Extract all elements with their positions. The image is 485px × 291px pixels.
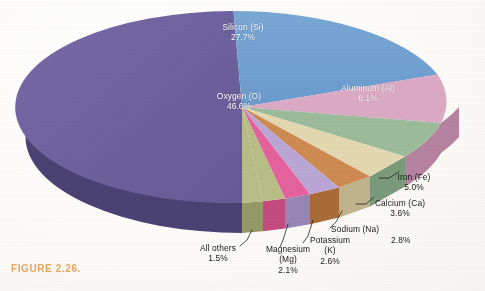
slice-label-calcium-name: Calcium (Ca)	[375, 198, 425, 208]
slice-label-sodium-value: 2.8%	[391, 235, 411, 245]
figure-pie-chart-earth-crust-composition: Oxygen (O) 46.6% Silicon (Si) 27.7% Alum…	[0, 0, 485, 291]
slice-label-iron: Iron (Fe) 5.0%	[381, 172, 447, 193]
slice-label-silicon-name: Silicon (Si)	[222, 22, 263, 32]
slice-label-all-others-name: All others	[200, 243, 236, 253]
slice-label-iron-value: 5.0%	[381, 182, 447, 192]
slice-label-aluminum-name: Aluminum (Al)	[341, 83, 395, 93]
slice-label-oxygen-value: 46.6%	[184, 101, 294, 111]
slice-label-oxygen-name: Oxygen (O)	[217, 91, 261, 101]
slice-label-silicon: Silicon (Si) 27.7%	[183, 22, 303, 43]
figure-caption-label: FIGURE 2.26.	[11, 263, 81, 274]
slice-label-silicon-value: 27.7%	[183, 32, 303, 42]
slice-label-sodium: Sodium (Na)	[331, 224, 415, 234]
slice-label-oxygen: Oxygen (O) 46.6%	[184, 91, 294, 112]
slice-label-all-others: All others 1.5%	[190, 243, 246, 264]
slice-label-all-others-value: 1.5%	[190, 253, 246, 263]
slice-label-aluminum-value: 8.1%	[318, 93, 418, 103]
side-wall-all-others	[242, 201, 263, 233]
side-wall-magnesium	[263, 199, 285, 232]
slice-label-calcium-value: 3.6%	[357, 208, 443, 218]
slice-label-magnesium: Magnesium (Mg) 2.1%	[254, 244, 322, 275]
slice-label-magnesium-value: 2.1%	[254, 265, 322, 275]
slice-label-aluminum: Aluminum (Al) 8.1%	[318, 83, 418, 104]
slice-label-magnesium-name: Magnesium	[266, 244, 310, 254]
slice-label-sodium-name: Sodium (Na)	[331, 224, 379, 234]
slice-label-magnesium-name2: (Mg)	[254, 254, 322, 264]
slice-label-iron-name: Iron (Fe)	[397, 172, 430, 182]
side-wall-potassium	[285, 194, 310, 228]
slice-label-calcium: Calcium (Ca) 3.6%	[357, 198, 443, 219]
slice-label-sodium-value-wrap: 2.8%	[391, 235, 431, 245]
